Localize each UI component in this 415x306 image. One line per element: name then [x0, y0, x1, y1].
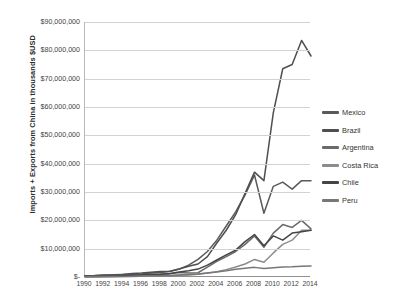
- y-axis-tick-label: $70,000,000: [8, 75, 80, 83]
- x-axis-tick-label: 1994: [114, 280, 129, 287]
- legend-item-brazil[interactable]: Brazil: [322, 122, 412, 140]
- x-axis-tick-label: 2008: [246, 280, 261, 287]
- x-axis-tick-label: 2004: [208, 280, 223, 287]
- y-axis-tick-label: $10,000,000: [8, 245, 80, 253]
- legend-swatch-icon: [322, 181, 339, 184]
- series-layer: [85, 22, 311, 277]
- y-axis-tick-label: $20,000,000: [8, 216, 80, 224]
- x-axis-tick-labels: 1990199219941996199820002002200420062008…: [84, 280, 310, 300]
- legend-item-label: Argentina: [342, 143, 374, 152]
- legend-item-mexico[interactable]: Mexico: [322, 104, 412, 122]
- x-axis-tick-label: 1990: [76, 280, 91, 287]
- legend-item-label: Peru: [342, 196, 358, 205]
- line-chart: Imports + Exports from China in thousand…: [0, 0, 415, 306]
- x-axis-tick-label: 1992: [95, 280, 110, 287]
- gridline: [85, 192, 310, 193]
- x-axis-tick-label: 2000: [171, 280, 186, 287]
- legend-swatch-icon: [322, 199, 339, 202]
- plot-area: [84, 22, 310, 277]
- y-axis-tick-label: $80,000,000: [8, 46, 80, 54]
- legend-item-peru[interactable]: Peru: [322, 192, 412, 210]
- legend-item-label: Brazil: [342, 126, 360, 135]
- legend-item-costa-rica[interactable]: Costa Rica: [322, 157, 412, 175]
- gridline: [85, 107, 310, 108]
- y-axis-tick-label: $40,000,000: [8, 160, 80, 168]
- x-axis-tick-label: 2012: [284, 280, 299, 287]
- legend-swatch-icon: [322, 111, 339, 114]
- legend-swatch-icon: [322, 146, 339, 149]
- gridline: [85, 79, 310, 80]
- x-axis-tick-label: 2002: [189, 280, 204, 287]
- series-line-mexico: [85, 175, 311, 276]
- x-axis-tick-label: 2006: [227, 280, 242, 287]
- gridline: [85, 164, 310, 165]
- gridline: [85, 50, 310, 51]
- chart-legend: MexicoBrazilArgentinaCosta RicaChilePeru: [322, 104, 412, 209]
- legend-item-label: Mexico: [342, 108, 365, 117]
- legend-item-chile[interactable]: Chile: [322, 174, 412, 192]
- gridline: [85, 135, 310, 136]
- legend-item-argentina[interactable]: Argentina: [322, 139, 412, 157]
- gridline: [85, 249, 310, 250]
- x-axis-tick-label: 1998: [152, 280, 167, 287]
- y-axis-tick-label: $30,000,000: [8, 188, 80, 196]
- legend-swatch-icon: [322, 164, 339, 167]
- y-axis-tick-label: $90,000,000: [8, 18, 80, 26]
- y-axis-tick-label: $50,000,000: [8, 131, 80, 139]
- x-axis-tick-label: 2010: [265, 280, 280, 287]
- y-axis-tick-label: $60,000,000: [8, 103, 80, 111]
- legend-item-label: Costa Rica: [342, 161, 378, 170]
- series-line-brazil: [85, 40, 311, 275]
- y-axis-tick-labels: $-$10,000,000$20,000,000$30,000,000$40,0…: [8, 0, 80, 306]
- legend-item-label: Chile: [342, 178, 359, 187]
- x-axis-tick-label: 2014: [302, 280, 317, 287]
- gridline: [85, 220, 310, 221]
- x-axis-tick-label: 1996: [133, 280, 148, 287]
- gridline: [85, 22, 310, 23]
- legend-swatch-icon: [322, 129, 339, 132]
- series-line-chile: [85, 230, 311, 276]
- y-axis-tick-label: $-: [8, 273, 80, 281]
